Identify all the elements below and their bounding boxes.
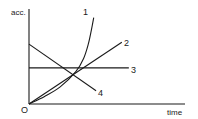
series-1-label: 1 <box>83 7 88 17</box>
x-axis-label: time <box>167 108 183 117</box>
series-3-label: 3 <box>131 65 136 75</box>
series-1-line <box>29 18 94 104</box>
series-group <box>29 18 129 104</box>
origin-label: O <box>21 105 28 115</box>
series-2-line <box>29 42 122 104</box>
series-4-label: 4 <box>98 88 103 98</box>
series-2-label: 2 <box>124 38 129 48</box>
acceleration-time-chart: acc. time O 1 2 3 4 <box>0 0 198 119</box>
y-axis-label: acc. <box>11 8 26 17</box>
